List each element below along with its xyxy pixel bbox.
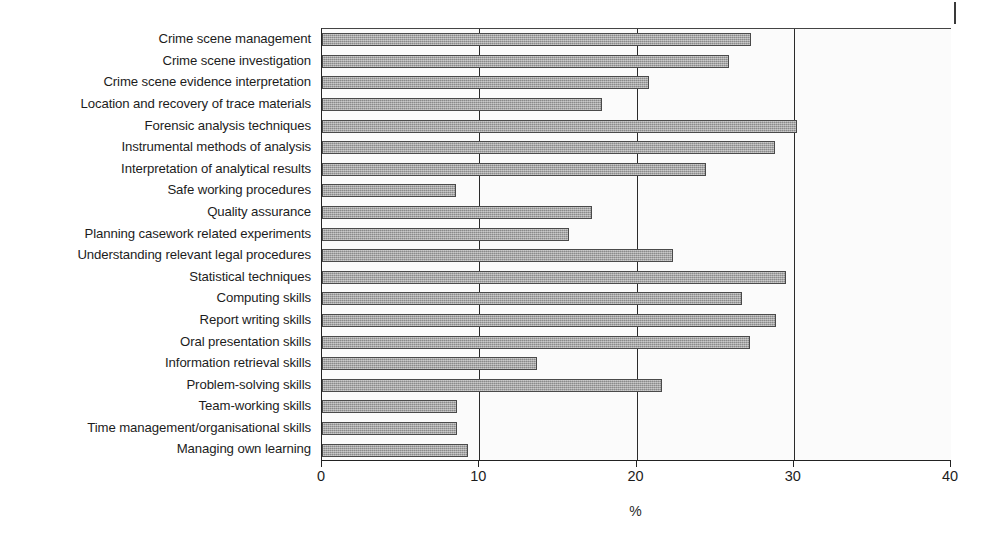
category-label: Forensic analysis techniques: [0, 114, 316, 136]
x-tick-mark-0: [321, 460, 322, 467]
bar: [322, 422, 457, 435]
category-label: Interpretation of analytical results: [0, 158, 316, 180]
bar-row: [322, 72, 951, 94]
x-tick-label: 0: [317, 468, 325, 484]
bar: [322, 444, 468, 457]
category-label: Quality assurance: [0, 201, 316, 223]
x-tick-label: 20: [627, 468, 643, 484]
bar: [322, 163, 706, 176]
bar: [322, 184, 456, 197]
bar-row: [322, 159, 951, 181]
bar-row: [322, 439, 951, 461]
x-tick-mark-10: [478, 460, 479, 467]
bar-chart-figure: Crime scene managementCrime scene invest…: [0, 0, 991, 553]
bar-row: [322, 288, 951, 310]
bar-row: [322, 418, 951, 440]
category-label: Information retrieval skills: [0, 352, 316, 374]
bar-row: [322, 396, 951, 418]
bar-series: [322, 29, 951, 461]
x-tick-label: 40: [942, 468, 958, 484]
plot-area: [321, 28, 951, 461]
bar: [322, 271, 786, 284]
category-label: Crime scene management: [0, 28, 316, 50]
bar: [322, 336, 750, 349]
category-label: Computing skills: [0, 287, 316, 309]
bar-row: [322, 353, 951, 375]
bar: [322, 76, 649, 89]
bar: [322, 141, 775, 154]
bar-row: [322, 202, 951, 224]
x-tick-label: 10: [470, 468, 486, 484]
bar: [322, 379, 662, 392]
category-label: Understanding relevant legal procedures: [0, 244, 316, 266]
category-label-column: Crime scene managementCrime scene invest…: [0, 28, 316, 460]
category-label: Managing own learning: [0, 438, 316, 460]
bar-row: [322, 310, 951, 332]
category-label: Problem-solving skills: [0, 374, 316, 396]
category-label: Team-working skills: [0, 395, 316, 417]
bar-row: [322, 94, 951, 116]
bar-row: [322, 375, 951, 397]
category-label: Time management/organisational skills: [0, 417, 316, 439]
category-label: Planning casework related experiments: [0, 222, 316, 244]
bar: [322, 357, 537, 370]
category-label: Safe working procedures: [0, 179, 316, 201]
category-label: Crime scene evidence interpretation: [0, 71, 316, 93]
x-tick-mark-30: [793, 460, 794, 467]
bar: [322, 206, 592, 219]
category-label: Report writing skills: [0, 309, 316, 331]
page-corner-mark: [954, 2, 956, 24]
bar-row: [322, 29, 951, 51]
bar: [322, 292, 742, 305]
category-label: Statistical techniques: [0, 266, 316, 288]
x-tick-label: 30: [785, 468, 801, 484]
bar-row: [322, 331, 951, 353]
bar: [322, 55, 729, 68]
category-label: Location and recovery of trace materials: [0, 93, 316, 115]
x-axis-title: %: [321, 503, 950, 519]
bar-row: [322, 223, 951, 245]
bar: [322, 98, 602, 111]
x-tick-mark-40: [950, 460, 951, 467]
bar: [322, 33, 751, 46]
bar-row: [322, 267, 951, 289]
bar: [322, 120, 797, 133]
x-tick-mark-20: [636, 460, 637, 467]
bar: [322, 400, 457, 413]
bar: [322, 314, 776, 327]
bar-row: [322, 137, 951, 159]
bar-row: [322, 51, 951, 73]
bar: [322, 249, 673, 262]
bar-row: [322, 245, 951, 267]
bar: [322, 228, 569, 241]
bar-row: [322, 115, 951, 137]
category-label: Instrumental methods of analysis: [0, 136, 316, 158]
category-label: Crime scene investigation: [0, 50, 316, 72]
category-label: Oral presentation skills: [0, 330, 316, 352]
bar-row: [322, 180, 951, 202]
